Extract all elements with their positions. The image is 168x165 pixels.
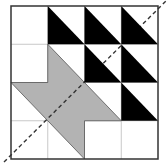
tiling-diagram [0, 0, 168, 165]
